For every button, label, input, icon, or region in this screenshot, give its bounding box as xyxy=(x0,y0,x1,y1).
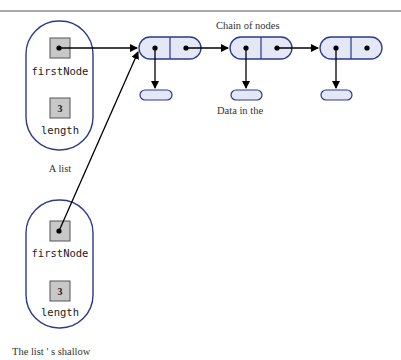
chain-of-nodes-label: Chain of nodes xyxy=(216,20,280,31)
node-1 xyxy=(139,37,201,100)
node-3 xyxy=(320,37,382,100)
list-container-shallow-copy: firstNode 3 length xyxy=(26,200,93,328)
length-value: 3 xyxy=(58,103,63,114)
list-container-original: firstNode 3 length xyxy=(26,21,93,150)
data-in-the-label: Data in the xyxy=(217,105,263,116)
linked-list-diagram: firstNode 3 length A list firstNode 3 le… xyxy=(0,0,401,360)
first-node-label: firstNode xyxy=(32,247,89,259)
node-2 xyxy=(230,37,292,100)
shallow-caption: The list ' s shallow xyxy=(12,346,91,357)
length-label: length xyxy=(41,306,79,318)
data-object xyxy=(321,90,352,100)
length-label: length xyxy=(41,124,79,136)
a-list-caption: A list xyxy=(49,163,72,174)
data-object xyxy=(231,90,262,100)
first-node-label: firstNode xyxy=(32,65,89,77)
data-object xyxy=(140,90,172,100)
pointer-arrows xyxy=(59,48,336,231)
length-value: 3 xyxy=(58,286,63,297)
